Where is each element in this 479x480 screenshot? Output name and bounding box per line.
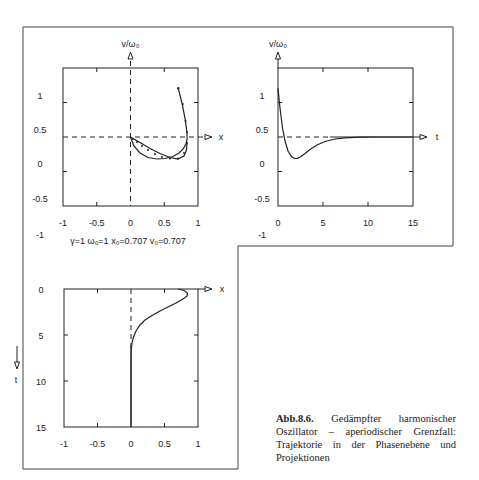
svg-text:10: 10 (36, 377, 46, 387)
svg-text:0.5: 0.5 (34, 125, 47, 135)
svg-text:10: 10 (363, 218, 373, 228)
svg-text:0: 0 (128, 218, 133, 228)
svg-text:1: 1 (37, 91, 42, 101)
position-ylabel: t (15, 375, 18, 385)
phase-trajectory (131, 88, 188, 159)
v-axis-arrow-icon (128, 52, 133, 59)
svg-text:-1: -1 (36, 230, 44, 240)
position-xlabel: x (220, 284, 225, 294)
svg-text:0: 0 (128, 439, 133, 449)
svg-text:-1: -1 (258, 230, 266, 240)
t-axis-arrow-icon (15, 362, 20, 369)
x-axis-arrow-icon (205, 287, 212, 292)
velocity-curve (278, 88, 413, 158)
figure-canvas: 1 0.5 0 -0.5 -1 -1 -0.5 0 0.5 1 v/ω₀ x γ… (0, 0, 479, 480)
parameter-annotation: γ=1 ω₀=1 x₀=0.707 v₀=0.707 (70, 236, 185, 246)
phase-plane-chart: 1 0.5 0 -0.5 -1 -1 -0.5 0 0.5 1 v/ω₀ x γ… (32, 39, 224, 246)
svg-text:0: 0 (275, 218, 280, 228)
svg-text:5: 5 (320, 218, 325, 228)
figure-frame (23, 27, 453, 469)
position-time-chart: t 0 5 10 15 -1 -0.5 0 0.5 1 x (15, 284, 225, 449)
x-axis-arrow-icon (205, 135, 212, 140)
figure-caption: Abb.8.6. Gedämpfter harmonischer Oszilla… (276, 412, 456, 464)
t-axis-arrow-icon (420, 135, 427, 140)
svg-text:0.5: 0.5 (158, 218, 171, 228)
phase-ylabel: v/ω₀ (122, 39, 140, 49)
phase-xlabel: x (219, 132, 224, 142)
svg-text:1: 1 (195, 218, 200, 228)
svg-text:-0.5: -0.5 (90, 439, 106, 449)
svg-text:0: 0 (259, 159, 264, 169)
velocity-time-chart: 1 0.5 0 -0.5 -1 0 5 10 15 v/ω₀ t (254, 39, 439, 240)
svg-text:-1: -1 (60, 439, 68, 449)
svg-text:15: 15 (36, 423, 46, 433)
svg-text:0.5: 0.5 (158, 439, 171, 449)
svg-text:0: 0 (37, 159, 42, 169)
svg-text:-0.5: -0.5 (32, 194, 48, 204)
svg-text:5: 5 (38, 331, 43, 341)
svg-text:1: 1 (195, 439, 200, 449)
svg-text:0: 0 (38, 285, 43, 295)
svg-text:-0.5: -0.5 (254, 194, 270, 204)
svg-text:0.5: 0.5 (256, 125, 269, 135)
svg-text:1: 1 (259, 91, 264, 101)
svg-text:15: 15 (408, 218, 418, 228)
v-axis-arrow-icon (276, 52, 281, 59)
caption-label: Abb.8.6. (276, 413, 314, 424)
svg-text:-1: -1 (59, 218, 67, 228)
velocity-xlabel: t (436, 132, 439, 142)
position-curve (131, 289, 188, 427)
svg-text:-0.5: -0.5 (89, 218, 105, 228)
velocity-ylabel: v/ω₀ (269, 39, 287, 49)
